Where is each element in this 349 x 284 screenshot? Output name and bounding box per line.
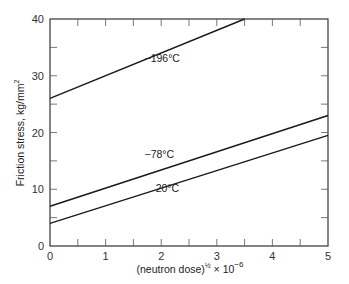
y-tick-label: 30 [32,70,44,82]
series-label: 20°C [156,182,180,194]
series-line [50,135,328,223]
plot-frame [50,19,328,246]
chart: 012345010203040 −196°C−78°C20°C (neutron… [0,0,349,284]
x-tick-label: 1 [103,250,109,262]
axis-ticks: 012345010203040 [32,13,331,262]
series-label: −78°C [145,148,175,160]
series-line [50,115,328,206]
y-tick-label: 0 [38,240,44,252]
x-tick-label: 3 [214,250,220,262]
y-tick-label: 40 [32,13,44,25]
curve-labels: −196°C−78°C20°C [145,52,181,195]
y-tick-label: 20 [32,127,44,139]
y-tick-label: 10 [32,183,44,195]
plot-border [50,19,328,246]
x-axis-label: (neutron dose)½ × 10−6 [137,260,244,275]
y-axis-label: Friction stress, kg/mm2 [13,80,26,187]
x-tick-label: 2 [158,250,164,262]
data-lines [50,19,328,223]
x-tick-label: 4 [269,250,275,262]
series-label: −196°C [145,52,181,64]
x-tick-label: 5 [325,250,331,262]
x-tick-label: 0 [47,250,53,262]
